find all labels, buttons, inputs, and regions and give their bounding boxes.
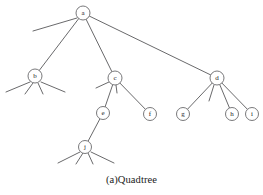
node-label-j: j <box>83 143 86 151</box>
leaf-stub-d-7 <box>209 85 214 101</box>
leaf-stub-c-5 <box>96 82 109 88</box>
edge-d-g <box>188 83 212 109</box>
node-label-b: b <box>33 72 37 80</box>
edge-c-e <box>105 85 112 107</box>
leaf-stub-b-2 <box>25 83 33 94</box>
node-d[interactable]: d <box>210 71 224 85</box>
leaf-stub-layer <box>6 18 214 164</box>
node-h[interactable]: h <box>226 108 239 121</box>
leaf-stub-b-4 <box>41 82 65 92</box>
node-e[interactable]: e <box>97 107 110 120</box>
leaf-stub-c-6 <box>116 85 117 93</box>
node-i[interactable]: i <box>246 108 259 121</box>
node-f[interactable]: f <box>144 108 157 121</box>
node-c[interactable]: c <box>108 71 122 85</box>
figure-caption: (a)Quadtree <box>0 174 263 185</box>
node-layer: abcdefghij <box>28 6 259 154</box>
leaf-stub-b-1 <box>6 82 30 92</box>
node-label-g: g <box>181 110 185 118</box>
node-a[interactable]: a <box>76 6 90 20</box>
node-label-e: e <box>101 109 104 117</box>
leaf-stub-j-8 <box>58 152 80 163</box>
quadtree-canvas: abcdefghij <box>0 0 263 195</box>
edge-a-d <box>89 16 210 75</box>
node-j[interactable]: j <box>79 141 92 154</box>
quadtree-figure: abcdefghij (a)Quadtree <box>0 0 263 195</box>
edge-a-c <box>86 19 112 71</box>
leaf-stub-j-9 <box>76 153 83 164</box>
edge-c-f <box>120 83 145 109</box>
leaf-stub-j-10 <box>88 153 93 164</box>
node-label-c: c <box>113 74 116 82</box>
edge-e-j <box>88 119 100 141</box>
node-g[interactable]: g <box>177 108 190 121</box>
node-b[interactable]: b <box>28 69 42 83</box>
leaf-stub-b-3 <box>38 83 43 94</box>
edge-d-i <box>222 83 247 109</box>
node-label-i: i <box>251 110 253 118</box>
edge-d-h <box>220 85 230 108</box>
edge-a-b <box>39 19 78 71</box>
node-label-h: h <box>230 110 234 118</box>
node-label-d: d <box>215 74 219 82</box>
leaf-stub-j-11 <box>91 152 114 163</box>
